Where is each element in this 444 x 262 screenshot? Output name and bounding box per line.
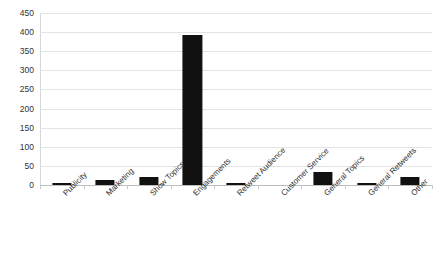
x-tick-label: Other: [410, 178, 430, 198]
x-tick-label: Marketing: [105, 167, 135, 197]
x-tick-mark: [388, 185, 389, 189]
bar-chart: 050100150200250300350400450 PublicityMar…: [0, 0, 444, 262]
x-tick-mark: [171, 185, 172, 189]
x-tick-label: General Topics: [323, 154, 366, 197]
x-tick-label: Show Topics: [149, 160, 186, 197]
x-tick-mark: [214, 185, 215, 189]
x-tick-label: Engagements: [192, 157, 233, 198]
x-tick-mark: [432, 185, 433, 189]
x-tick-mark: [301, 185, 302, 189]
x-tick-mark: [345, 185, 346, 189]
x-tick-mark: [84, 185, 85, 189]
x-tick-mark: [40, 185, 41, 189]
x-tick-mark: [258, 185, 259, 189]
x-axis-labels: PublicityMarketingShow TopicsEngagements…: [0, 0, 444, 262]
x-tick-mark: [127, 185, 128, 189]
